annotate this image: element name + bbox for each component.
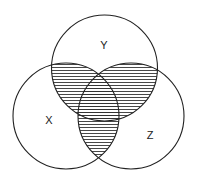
set-z-label: Z [147, 129, 154, 141]
set-y-label: Y [100, 39, 108, 51]
venn-diagram: X Y Z [0, 0, 201, 179]
set-x-label: X [45, 114, 53, 126]
